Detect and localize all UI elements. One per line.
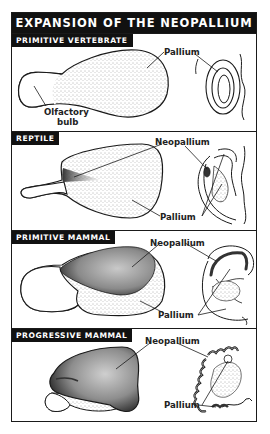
callout-pallium: Pallium bbox=[164, 400, 200, 410]
primitive-vertebrate-brain-illustration bbox=[12, 34, 258, 132]
callout-neopallium: Neopallium bbox=[150, 238, 205, 248]
diagram-frame: EXPANSION OF THE NEOPALLIUM PRIMITIVE VE… bbox=[11, 12, 257, 422]
callout-pallium: Pallium bbox=[160, 212, 196, 222]
callout-pallium: Pallium bbox=[158, 310, 194, 320]
panel-primitive-vertebrate: PRIMITIVE VERTEBRATE Pallium Olfactory b… bbox=[12, 33, 256, 132]
panel-progressive-mammal: PROGRESSIVE MAMMAL Neopallium Pallium bbox=[12, 328, 256, 424]
reptile-brain-illustration bbox=[12, 132, 258, 231]
callout-neopallium: Neopallium bbox=[155, 137, 210, 147]
callout-olfactory-bulb-line1: Olfactory bbox=[44, 107, 89, 117]
panel-reptile: REPTILE Neopallium Pallium bbox=[12, 131, 256, 231]
diagram-title: EXPANSION OF THE NEOPALLIUM bbox=[12, 13, 256, 33]
callout-neopallium: Neopallium bbox=[145, 336, 200, 346]
primitive-mammal-brain-illustration bbox=[12, 231, 258, 329]
progressive-mammal-brain-illustration bbox=[12, 329, 258, 424]
callout-pallium: Pallium bbox=[164, 47, 200, 57]
panel-primitive-mammal: PRIMITIVE MAMMAL Neopallium Pallium bbox=[12, 230, 256, 329]
callout-olfactory-bulb-line2: bulb bbox=[57, 117, 78, 127]
